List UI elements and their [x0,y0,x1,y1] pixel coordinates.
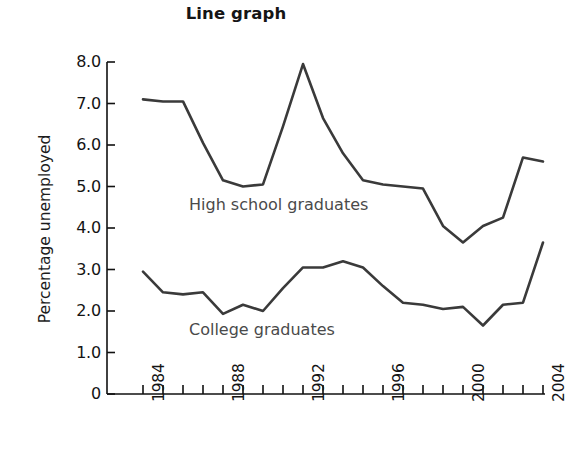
series-annotation-college-graduates: College graduates [189,320,335,339]
y-tick-label: 6.0 [45,135,101,154]
x-tick-label: 2004 [550,363,568,402]
x-tick-label: 1988 [230,363,248,402]
x-tick-label: 1992 [310,363,328,402]
series-line-college-graduates [143,243,543,326]
y-tick-label: 7.0 [45,94,101,113]
y-tick-label: 0 [45,384,101,403]
line-graph-figure: Line graph Percentage unemployed 01.02.0… [0,0,571,469]
x-tick-label: 1984 [150,363,168,402]
y-tick-label: 8.0 [45,52,101,71]
x-tick-label: 2000 [470,363,488,402]
y-tick-label: 3.0 [45,260,101,279]
series-annotation-high-school-graduates: High school graduates [189,195,368,214]
y-tick-label: 4.0 [45,218,101,237]
y-tick-label: 1.0 [45,343,101,362]
series-line-high-school-graduates [143,64,543,242]
x-tick-label: 1996 [390,363,408,402]
y-tick-label: 2.0 [45,301,101,320]
y-tick-label: 5.0 [45,177,101,196]
